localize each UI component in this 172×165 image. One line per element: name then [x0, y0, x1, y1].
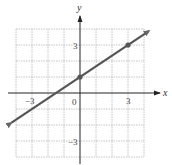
x-axis-label: x	[162, 87, 168, 98]
coordinate-plane: x y −3 0 3 3 −3	[0, 0, 172, 165]
tick-label-origin: 0	[72, 97, 77, 107]
data-point	[125, 42, 130, 47]
tick-label-y-3: 3	[73, 41, 78, 51]
tick-label-x-neg3: −3	[25, 96, 35, 106]
data-point	[77, 74, 82, 79]
tick-label-x-3: 3	[126, 96, 131, 106]
y-axis-label: y	[76, 2, 82, 13]
tick-label-y-neg3: −3	[68, 137, 78, 147]
